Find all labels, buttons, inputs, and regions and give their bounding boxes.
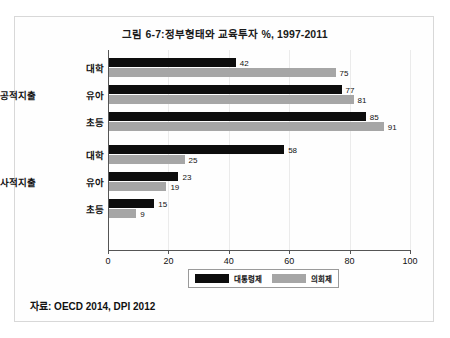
x-tick-label: 100 xyxy=(402,256,417,266)
x-tick-label: 20 xyxy=(163,256,173,266)
bar xyxy=(109,182,166,191)
bar-value-label: 19 xyxy=(170,182,179,191)
bar xyxy=(109,199,154,208)
bar xyxy=(109,172,178,181)
bar-value-label: 15 xyxy=(158,199,167,208)
bar xyxy=(109,85,342,94)
category-label: 대학 xyxy=(4,148,104,162)
chart-title: 그림 6-7:정부형태와 교육투자 %, 1997-2011 xyxy=(0,26,450,41)
bar xyxy=(109,112,366,121)
x-axis-line xyxy=(108,250,410,251)
category-label: 초등 xyxy=(4,202,104,216)
x-tick-mark xyxy=(410,250,411,254)
category-label: 대학 xyxy=(4,61,104,75)
bar-value-label: 58 xyxy=(288,145,297,154)
group-label: 공적지출 xyxy=(0,88,60,102)
bar-value-label: 23 xyxy=(182,172,191,181)
bar xyxy=(109,122,384,131)
x-tick-mark xyxy=(350,250,351,254)
x-tick-label: 60 xyxy=(284,256,294,266)
x-tick-label: 80 xyxy=(345,256,355,266)
bar-value-label: 77 xyxy=(346,85,355,94)
legend-label: 의회제 xyxy=(311,273,332,284)
x-tick-mark xyxy=(289,250,290,254)
x-tick-mark xyxy=(168,250,169,254)
bar xyxy=(109,58,236,67)
bar xyxy=(109,145,284,154)
x-tick-mark xyxy=(108,250,109,254)
chart-legend: 대통령제의회제 xyxy=(188,269,339,288)
legend-swatch xyxy=(195,274,229,283)
plot-area: 020406080100 42757781859158252319159 xyxy=(108,50,410,250)
bar-value-label: 81 xyxy=(358,95,367,104)
legend-swatch xyxy=(272,274,306,283)
bar-value-label: 91 xyxy=(388,122,397,131)
bar xyxy=(109,95,354,104)
group-label: 사적지출 xyxy=(0,175,60,189)
bar-value-label: 9 xyxy=(140,209,144,218)
bar xyxy=(109,209,136,218)
bar-value-label: 25 xyxy=(189,155,198,164)
bar-value-label: 75 xyxy=(340,68,349,77)
bar-value-label: 42 xyxy=(240,58,249,67)
bar xyxy=(109,155,185,164)
x-tick-mark xyxy=(229,250,230,254)
gridline xyxy=(410,50,411,250)
legend-label: 대통령제 xyxy=(234,273,262,284)
legend-entry: 의회제 xyxy=(272,273,332,284)
legend-entry: 대통령제 xyxy=(195,273,262,284)
bar-value-label: 85 xyxy=(370,112,379,121)
x-tick-label: 0 xyxy=(105,256,110,266)
category-label: 초등 xyxy=(4,115,104,129)
x-tick-label: 40 xyxy=(224,256,234,266)
gridline xyxy=(350,50,351,250)
source-note: 자료: OECD 2014, DPI 2012 xyxy=(30,298,155,313)
figure-container: 그림 6-7:정부형태와 교육투자 %, 1997-2011 020406080… xyxy=(0,0,450,338)
bar xyxy=(109,68,336,77)
